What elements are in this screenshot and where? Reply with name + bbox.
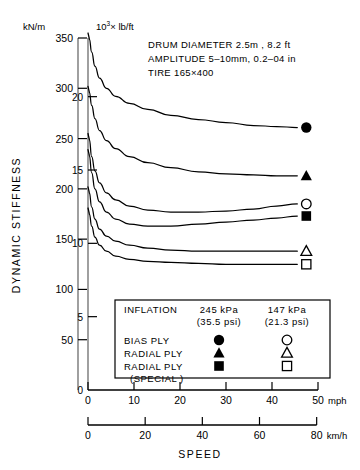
y-axis-left-tick-label: 350 [55,32,73,44]
legend-marker-filled-square [214,361,224,371]
x-axis-mph-tick-label: 50 [312,394,324,406]
y-axis-right-tick-label: 5 [77,312,83,323]
data-curve [88,208,297,264]
y-axis-right-tick-label: 10 [72,238,84,249]
y-axis-right-tick-label: 15 [72,165,84,176]
x-axis-mph-tick-label: 30 [220,394,232,406]
dynamic-stiffness-chart: 50100150200250300350kN/mDYNAMIC STIFFNES… [0,0,360,470]
y-axis-left-tick-label: 250 [55,133,73,145]
y-axis-right-tick-label: 0 [77,385,83,396]
legend-row-label: BIAS PLY [124,335,170,346]
series-end-marker-open-square [302,260,311,269]
y-axis-right-tick-label: 20 [72,92,84,103]
series-end-marker-filled-triangle [301,170,312,180]
y-axis-title: DYNAMIC STIFFNESS [10,157,22,293]
y-axis-right-unit: 103× lb/ft [96,20,134,32]
legend-row-sublabel: (SPECIAL ) [130,373,184,384]
series-end-marker-open-circle [302,199,312,209]
legend-row-label: RADIAL PLY [124,348,183,359]
x-axis-title: SPEED [178,448,222,460]
legend-marker-open-square [282,361,291,370]
y-axis-left-unit: kN/m [23,21,45,32]
data-curve [88,134,297,213]
legend-col1-sub: (35.5 psi) [197,316,242,327]
series-end-marker-filled-circle [301,122,311,132]
annotation-line: DRUM DIAMETER 2.5m , 8.2 ft [148,39,290,50]
data-curve [88,86,297,176]
legend-marker-open-circle [282,335,292,345]
x-axis-mph-tick-label: 0 [85,394,91,406]
x-axis-kmh-tick-label: 0 [85,429,91,441]
annotation-line: TIRE 165×400 [148,67,214,78]
y-axis-left-tick-label: 50 [61,334,73,346]
x-axis-mph-tick-label: 20 [174,394,186,406]
y-axis-left-tick-label: 150 [55,233,73,245]
legend-row-label: RADIAL PLY [124,361,183,372]
x-axis-kmh-tick-label: 20 [139,429,151,441]
y-axis-left-tick-label: 300 [55,82,73,94]
x-axis-mph-tick-label: 10 [128,394,140,406]
legend-col2-value: 147 kPa [268,304,307,315]
legend-col2-sub: (21.3 psi) [265,316,310,327]
data-curve [88,150,297,227]
series-end-marker-filled-square [302,211,312,221]
x-axis-kmh-tick-label: 40 [196,429,208,441]
x-axis-kmh-tick-label: 60 [254,429,266,441]
x-axis-kmh-tick-label: 80 [311,429,323,441]
legend-col1-value: 245 kPa [200,304,239,315]
y-axis-left-tick-label: 100 [55,283,73,295]
x-axis-mph-unit: mph [328,395,346,406]
series-end-marker-open-triangle [301,246,312,256]
legend-title: INFLATION [124,304,177,315]
x-axis-kmh-unit: km/h [327,430,348,441]
legend-marker-filled-circle [214,335,224,345]
x-axis-mph-tick-label: 40 [266,394,278,406]
y-axis-left-tick-label: 200 [55,183,73,195]
figure-root: 50100150200250300350kN/mDYNAMIC STIFFNES… [0,0,360,470]
annotation-line: AMPLITUDE 5–10mm, 0.2–04 in [148,53,296,64]
